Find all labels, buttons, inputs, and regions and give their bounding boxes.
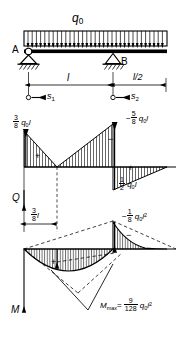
support-a-label: A <box>12 45 19 55</box>
distributed-load-block <box>24 31 167 48</box>
overhang-dimension-label: l/2 <box>133 73 143 82</box>
support-b-label: B <box>121 57 128 67</box>
figure-canvas <box>0 0 183 337</box>
moment-left-sign: + <box>51 258 56 267</box>
shear-value-left-of-b: −58 q0l <box>126 110 148 126</box>
shear-right-sign: + <box>128 164 133 173</box>
shear-left-sign: + <box>35 152 40 161</box>
beam-member <box>24 50 167 54</box>
shear-zero-dimension-label: 38l <box>31 207 39 223</box>
moment-value-at-b: −18 q0l2 <box>122 208 147 224</box>
span-dimension-label: l <box>67 73 69 83</box>
moment-axis-label: M <box>11 305 19 315</box>
moment-right-sign: − <box>126 231 131 240</box>
beam-load-shear-moment-figure: q0 A B l l/2 s1 s2 38 q0l −58 q0l 12 q0l… <box>0 0 183 337</box>
shear-value-right-of-b: 12 q0l <box>119 176 136 192</box>
moment-max-label: Mmax= 9128 q0l2 <box>100 297 152 313</box>
shear-axis-label: Q <box>12 193 20 203</box>
coordinate-arrows <box>26 95 129 99</box>
shear-diagram <box>24 123 176 232</box>
load-label: q0 <box>72 12 83 26</box>
coordinate-s1-label: s1 <box>47 92 55 102</box>
coordinate-s2-label: s2 <box>131 92 139 102</box>
shear-mid-sign: − <box>108 135 113 144</box>
shear-value-reaction-a: 38 q0l <box>13 114 30 130</box>
